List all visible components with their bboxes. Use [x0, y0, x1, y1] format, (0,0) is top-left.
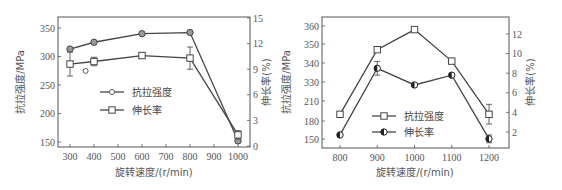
y-tick-label: 350 [304, 39, 319, 50]
y2-tick-label: 8 [512, 68, 517, 79]
legend: 抗拉强度伸长率 [372, 110, 444, 138]
y2-tick-label: 9 [253, 64, 258, 75]
y2-axis-label: 伸长率(%) [260, 58, 272, 105]
y-tick-label: 340 [304, 58, 319, 69]
y2-tick-label: 12 [253, 38, 263, 49]
x-tick-label: 500 [111, 151, 126, 162]
chart-1: 3004005006007008009001000150200250300350… [14, 13, 272, 179]
x-tick-label: 600 [135, 151, 150, 162]
x-tick-label: 800 [183, 151, 198, 162]
x-tick-label: 1000 [228, 151, 248, 162]
data-point [337, 111, 343, 117]
y-tick-label: 150 [40, 137, 55, 148]
y2-tick-label: 3 [253, 115, 258, 126]
x-tick-label: 900 [370, 152, 385, 163]
x-tick-label: 800 [333, 152, 348, 163]
chart-2: 8009001000110012001501802103303403503602… [280, 17, 536, 178]
y2-tick-label: 6 [512, 87, 517, 98]
data-point [109, 107, 115, 113]
y-axis-label: 抗拉强度/MPa [280, 50, 292, 114]
y-tick-label: 350 [40, 23, 55, 34]
y-axis-label: 抗拉强度/MPa [14, 50, 26, 114]
data-point [449, 58, 455, 64]
data-point [235, 132, 241, 138]
legend-label: 伸长率 [132, 104, 162, 116]
y2-tick-label: 4 [512, 107, 517, 118]
data-point [139, 31, 145, 37]
x-tick-label: 1200 [479, 152, 499, 163]
data-point [374, 47, 380, 53]
plot-frame [58, 17, 250, 147]
data-point [67, 61, 73, 67]
data-point [187, 29, 193, 35]
y2-axis-ticks: 24681012 [506, 29, 522, 138]
legend: 抗拉强度伸长率 [100, 86, 172, 116]
y-tick-label: 150 [304, 134, 319, 145]
x-tick-label: 400 [87, 151, 102, 162]
data-point [91, 58, 97, 64]
y2-tick-label: 0 [253, 141, 258, 152]
y2-tick-label: 2 [512, 127, 517, 138]
y-tick-label: 200 [40, 108, 55, 119]
data-point [381, 113, 387, 119]
y2-tick-label: 12 [512, 29, 522, 40]
x-tick-label: 1100 [442, 152, 462, 163]
y-tick-label: 360 [304, 21, 319, 32]
data-point [486, 111, 492, 117]
data-point [411, 26, 417, 32]
figure: 3004005006007008009001000150200250300350… [0, 0, 562, 190]
y-tick-label: 180 [304, 116, 319, 127]
x-tick-label: 300 [63, 151, 78, 162]
x-axis-label: 旋转速度/(r/min) [376, 166, 454, 178]
x-tick-label: 1000 [405, 152, 425, 163]
legend-label: 抗拉强度 [404, 110, 444, 122]
data-point [187, 55, 193, 61]
y2-tick-label: 10 [512, 48, 522, 59]
x-tick-label: 700 [159, 151, 174, 162]
y-tick-label: 210 [304, 96, 319, 107]
data-point [67, 46, 73, 52]
y-tick-label: 250 [40, 80, 55, 91]
data-point [91, 39, 97, 45]
y2-axis-label: 伸长率(%) [524, 58, 536, 105]
series-1 [337, 26, 492, 124]
x-tick-label: 900 [207, 151, 222, 162]
y-tick-label: 330 [304, 77, 319, 88]
x-axis-label: 旋转速度/(r/min) [115, 166, 193, 178]
y2-tick-label: 6 [253, 89, 258, 100]
data-point [139, 52, 145, 58]
legend-label: 抗拉强度 [132, 86, 172, 98]
y2-tick-label: 15 [253, 13, 263, 24]
y-tick-label: 300 [40, 51, 55, 62]
legend-label: 伸长率 [404, 126, 434, 138]
